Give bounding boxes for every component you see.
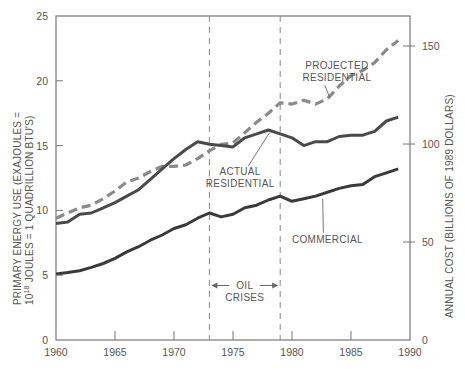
y-tick-label: 15	[36, 140, 48, 152]
line-chart: 1960196519701975198019851990051015202505…	[0, 0, 465, 372]
x-tick-label: 1970	[162, 346, 186, 358]
y-tick-label: 5	[42, 269, 48, 281]
annotation-label: ACTUAL	[219, 166, 260, 177]
annotation-label: PROJECTED	[305, 60, 368, 71]
x-tick-label: 1965	[103, 346, 127, 358]
y-tick-label: 10	[36, 204, 48, 216]
y2-tick-label: 50	[422, 236, 434, 248]
y-tick-label: 20	[36, 75, 48, 87]
y-tick-label: 0	[42, 334, 48, 346]
annotation-leader	[248, 133, 269, 167]
x-tick-label: 1980	[280, 346, 304, 358]
right-y-axis-title: ANNUAL COST (BILLIONS OF 1989 DOLLARS)	[444, 94, 455, 318]
y-tick-label: 25	[36, 10, 48, 22]
annotation-label: RESIDENTIAL	[206, 178, 275, 189]
arrow-left-icon	[211, 282, 217, 288]
left-y-axis-title-line2: 1018 JOULES = 1 QUADRILLION BTU'S)	[23, 115, 35, 305]
annotation-label: OIL	[236, 280, 253, 291]
chart-container: 1960196519701975198019851990051015202505…	[0, 0, 465, 372]
y2-tick-label: 0	[422, 334, 428, 346]
annotation-leader	[323, 199, 324, 233]
x-tick-label: 1975	[221, 346, 245, 358]
arrow-right-icon	[272, 282, 278, 288]
x-tick-label: 1960	[44, 346, 68, 358]
annotation-label: CRISES	[225, 292, 264, 303]
annotation-label: RESIDENTIAL	[302, 72, 371, 83]
left-y-axis-title-line1: PRIMARY ENERGY USE (EXAJOULES =	[12, 112, 23, 305]
x-tick-label: 1985	[339, 346, 363, 358]
y2-tick-label: 100	[422, 138, 440, 150]
annotation-label: COMMERCIAL	[292, 234, 363, 245]
y2-tick-label: 150	[422, 40, 440, 52]
annotation-leader	[325, 85, 330, 98]
x-tick-label: 1990	[398, 346, 422, 358]
annotations: PROJECTEDRESIDENTIALACTUALRESIDENTIALCOM…	[206, 60, 372, 303]
